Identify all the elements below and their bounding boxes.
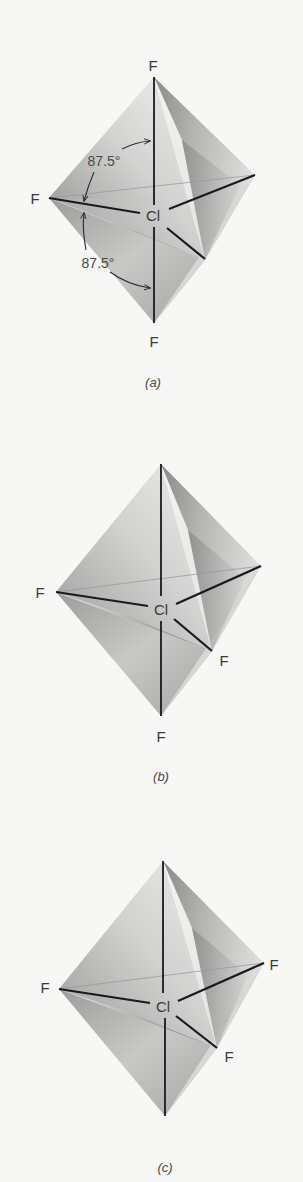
atom-label-f-left: F	[35, 584, 44, 601]
bipyramid-faces-b	[56, 464, 261, 716]
caption-c: (c)	[157, 1160, 172, 1175]
atom-label-cl: Cl	[154, 601, 168, 618]
clf3-figure: F F F Cl 87.5° 87.5° (a) F F F Cl (b)	[0, 0, 303, 1182]
atom-label-cl: Cl	[156, 998, 170, 1015]
angle-label-lower: 87.5°	[82, 255, 115, 271]
atom-label-cl: Cl	[146, 207, 160, 224]
panel-a: F F F Cl 87.5° 87.5° (a)	[30, 57, 255, 390]
atom-label-f-left: F	[40, 979, 49, 996]
atom-label-f-front-right: F	[219, 652, 228, 669]
caption-b: (b)	[153, 769, 169, 784]
atom-label-f-right: F	[269, 956, 278, 973]
panel-b: F F F Cl (b)	[35, 464, 261, 784]
bipyramid-faces-c	[59, 861, 264, 1116]
angle-label-upper: 87.5°	[88, 153, 121, 169]
caption-a: (a)	[145, 375, 161, 390]
atom-label-f-bottom: F	[149, 333, 158, 350]
atom-label-f-left: F	[30, 190, 39, 207]
panel-c: F F F Cl (c)	[40, 861, 278, 1175]
atom-label-f-front-right: F	[224, 1048, 233, 1065]
atom-label-f-bottom: F	[156, 728, 165, 745]
bipyramid-faces-a	[49, 77, 255, 323]
atom-label-f-top: F	[148, 57, 157, 74]
